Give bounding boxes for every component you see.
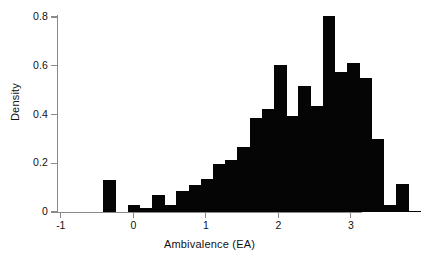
histogram-bar [286, 116, 299, 212]
x-tick-mark [133, 212, 134, 218]
x-tick-label: 0 [113, 219, 153, 231]
x-tick-label: -1 [41, 219, 81, 231]
histogram-bar [359, 78, 372, 212]
x-tick-mark [205, 212, 206, 218]
y-tick-mark [51, 114, 57, 115]
histogram-bar [408, 211, 421, 212]
x-axis-title: Ambivalence (EA) [57, 238, 362, 250]
histogram-bar [372, 139, 385, 212]
x-tick-mark [60, 212, 61, 218]
y-axis-line [57, 15, 58, 213]
y-axis-title: Density [9, 54, 21, 150]
histogram-bar [128, 205, 141, 212]
y-tick-mark [51, 163, 57, 164]
histogram-bar [152, 195, 165, 212]
histogram-bar [262, 109, 275, 212]
histogram-bar [164, 205, 177, 212]
y-tick-mark [51, 211, 57, 212]
histogram-bar [189, 185, 202, 212]
y-tick-label: 0.2 [0, 156, 48, 168]
histogram-bar [335, 72, 348, 212]
histogram-bar [323, 16, 336, 212]
histogram-bar [140, 208, 153, 212]
histogram-bar [396, 184, 409, 212]
x-tick-mark [278, 212, 279, 218]
histogram-bar [103, 180, 116, 212]
y-tick-label: 0 [0, 205, 48, 217]
histogram-bar [176, 191, 189, 212]
histogram-bar [311, 106, 324, 212]
histogram-bar [274, 65, 287, 212]
histogram-bar [298, 86, 311, 212]
y-tick-mark [51, 16, 57, 17]
y-tick-label: 0.8 [0, 10, 48, 22]
x-tick-mark [350, 212, 351, 218]
x-tick-label: 3 [331, 219, 371, 231]
histogram-bar [237, 147, 250, 212]
histogram-bar [201, 179, 214, 212]
x-tick-label: 1 [186, 219, 226, 231]
histogram-bar [347, 63, 360, 212]
histogram-bar [213, 164, 226, 212]
histogram-bar [250, 118, 263, 212]
y-tick-label: 0.4 [0, 108, 48, 120]
histogram-bar [225, 160, 238, 212]
y-tick-mark [51, 65, 57, 66]
y-tick-label: 0.6 [0, 59, 48, 71]
histogram-bar [384, 205, 397, 212]
x-tick-label: 2 [258, 219, 298, 231]
